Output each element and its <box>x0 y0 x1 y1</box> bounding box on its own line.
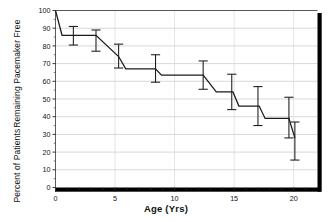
svg-text:10: 10 <box>171 194 179 203</box>
svg-text:70: 70 <box>43 59 51 68</box>
svg-text:20: 20 <box>290 194 298 203</box>
svg-text:60: 60 <box>43 77 51 86</box>
svg-text:50: 50 <box>43 95 51 104</box>
gridlines-group <box>56 11 318 170</box>
svg-text:100: 100 <box>39 6 51 15</box>
svg-text:15: 15 <box>230 194 238 203</box>
x-axis-title: Age (Yrs) <box>0 203 332 214</box>
plot-frame <box>56 11 322 192</box>
svg-text:0: 0 <box>54 194 58 203</box>
svg-text:90: 90 <box>43 24 51 33</box>
error-bars-group <box>69 26 300 160</box>
svg-text:5: 5 <box>113 194 117 203</box>
y-axis-ticks: 0102030405060708090100 <box>39 6 56 192</box>
chart-figure: Percent of Patients Remaining Pacemaker … <box>0 0 332 222</box>
chart-plot-svg: 0102030405060708090100 05101520 <box>0 0 332 222</box>
svg-text:0: 0 <box>47 183 51 192</box>
svg-text:10: 10 <box>43 165 51 174</box>
svg-text:20: 20 <box>43 148 51 157</box>
svg-text:40: 40 <box>43 112 51 121</box>
svg-text:80: 80 <box>43 42 51 51</box>
svg-text:30: 30 <box>43 130 51 139</box>
